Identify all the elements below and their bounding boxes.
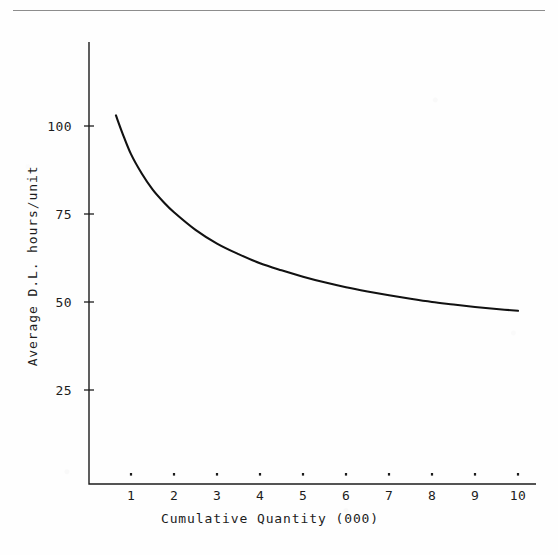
axis-lines — [89, 42, 536, 484]
x-axis-ticks — [130, 473, 519, 476]
x-axis-title: Cumulative Quantity (000) — [161, 511, 379, 526]
y-tick-label: 75 — [56, 207, 72, 222]
x-tick-mark — [517, 473, 519, 476]
x-axis-tick-labels: 12345678910 — [127, 488, 526, 503]
x-tick-label: 2 — [170, 488, 178, 503]
y-axis-title: Average D.L. hours/unit — [25, 166, 40, 367]
x-tick-label: 8 — [428, 488, 436, 503]
x-tick-mark — [302, 473, 304, 476]
x-tick-mark — [388, 473, 390, 476]
x-tick-label: 10 — [510, 488, 526, 503]
x-tick-label: 6 — [342, 488, 350, 503]
x-tick-label: 3 — [213, 488, 221, 503]
x-tick-mark — [216, 473, 218, 476]
x-tick-mark — [173, 473, 175, 476]
x-tick-label: 4 — [256, 488, 264, 503]
x-tick-mark — [431, 473, 433, 476]
y-tick-label: 100 — [47, 119, 72, 134]
x-tick-label: 9 — [471, 488, 479, 503]
x-tick-mark — [474, 473, 476, 476]
x-tick-label: 1 — [127, 488, 135, 503]
x-tick-label: 5 — [299, 488, 307, 503]
x-tick-label: 7 — [385, 488, 393, 503]
y-tick-label: 25 — [56, 383, 72, 398]
axes-group — [89, 42, 536, 484]
learning-curve-line — [116, 115, 518, 310]
x-tick-mark — [345, 473, 347, 476]
y-axis-tick-labels: 255075100 — [47, 119, 72, 398]
x-tick-mark — [130, 473, 132, 476]
x-tick-mark — [259, 473, 261, 476]
learning-curve-chart: 255075100 12345678910 Cumulative Quantit… — [0, 0, 558, 555]
chart-page: 255075100 12345678910 Cumulative Quantit… — [0, 0, 558, 555]
y-tick-label: 50 — [56, 295, 72, 310]
